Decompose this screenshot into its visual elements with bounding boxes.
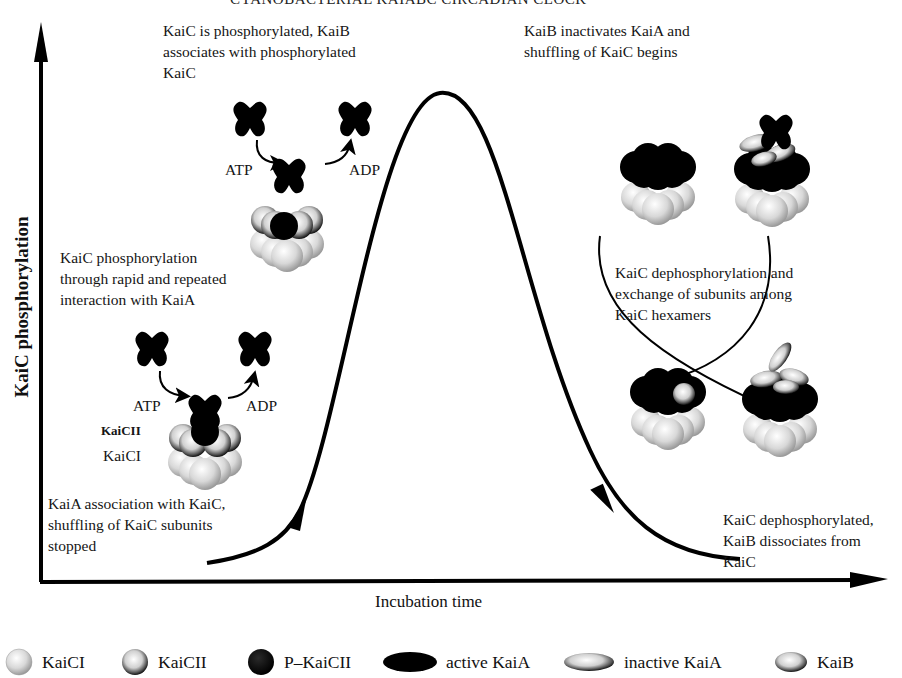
annotation-stage2: KaiC phosphorylation through rapid and r… [60,247,227,310]
kaia-icon [135,332,168,366]
label-adp-lower: ADP [246,397,277,415]
annotation-stage5: KaiC dephosphorylation and exchange of s… [615,262,793,325]
legend-item-kaib: KaiB [773,646,854,678]
legend-item-p-kaicii: P–KaiCII [246,646,351,678]
annotation-stage4: KaiB inactivates KaiA and shuffling of K… [524,20,690,62]
kaic-complex-phosphorylating [168,395,242,490]
label-adp-upper: ADP [349,161,380,179]
kaia-icon [238,332,271,366]
legend-item-kaicii: KaiCII [120,646,207,678]
kaic-complex-phosphorylated [250,159,324,272]
annotation-stage3: KaiC is phosphorylated, KaiB associates … [163,20,356,83]
kaib-ellipse-icon [773,647,809,677]
kaic-hexamer-exchanging [630,368,706,450]
label-atp-lower: ATP [133,397,161,415]
diagram-canvas [0,0,902,678]
x-axis-label: Incubation time [375,592,482,612]
label-kaici: KaiCI [103,447,141,465]
p-kaicii-sphere-icon [246,647,276,677]
inactive-kaia-ellipse-icon [562,647,616,677]
kaicii-sphere-icon [120,647,150,677]
kaic-hexamer-phospho [620,143,696,225]
y-axis-label: KaiC phosphorylation [11,207,33,407]
label-kaicii: KaiCII [101,423,141,439]
legend: KaiCI KaiCII P–KaiCII active KaiA inacti… [0,646,902,678]
legend-item-inactive-kaia: inactive KaiA [562,646,722,678]
kaici-sphere-icon [4,647,34,677]
annotation-stage6: KaiC dephosphorylated, KaiB dissociates … [723,509,874,572]
label-atp-upper: ATP [225,161,253,179]
legend-item-kaici: KaiCI [4,646,85,678]
active-kaia-ellipse-icon [382,647,438,677]
annotation-stage1: KaiA association with KaiC, shuffling of… [48,493,225,556]
kaia-icon [233,102,266,136]
kaic-kaib-kaia-complex [734,115,810,227]
legend-item-active-kaia: active KaiA [382,646,530,678]
kaic-kaib-inactive-kaia-complex [742,339,818,457]
kaia-icon [338,102,371,136]
